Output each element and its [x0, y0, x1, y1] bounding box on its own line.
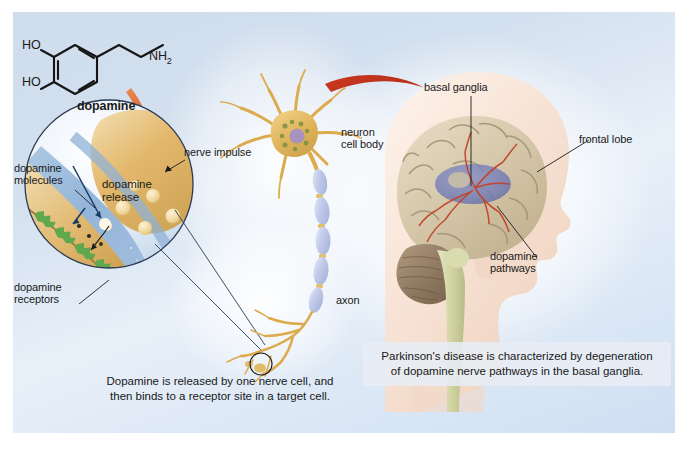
brain-caption: Parkinson's disease is characterized by … — [363, 342, 671, 386]
dopamine-receptors-label: dopamine receptors — [14, 281, 62, 306]
brain-leader-lines — [471, 96, 589, 258]
amine-text: NH — [149, 49, 167, 63]
amine-label: NH2 — [149, 35, 172, 66]
neuron — [221, 70, 361, 382]
illustration-panel: dopamine HO HO NH2 dopamine molecules do… — [13, 12, 675, 433]
dopamine-structure — [41, 45, 163, 94]
basal-ganglia-label: basal ganglia — [424, 81, 488, 93]
axon-myelin — [306, 152, 330, 314]
ho-top-label: HO — [22, 38, 41, 52]
dopamine-name-label: dopamine — [77, 99, 135, 113]
neuron-cell-body-label: neuron cell body — [341, 126, 384, 151]
dopamine-pathways-label: dopamine pathways — [490, 250, 538, 275]
dopamine-molecules-label: dopamine molecules — [14, 162, 63, 187]
inset-connector-lines — [155, 210, 265, 350]
dopamine-release-label: dopamine release — [102, 178, 152, 204]
amine-subscript: 2 — [167, 56, 172, 66]
frontal-lobe-label: frontal lobe — [579, 133, 632, 145]
synapse-caption: Dopamine is released by one nerve cell, … — [75, 374, 365, 404]
nerve-impulse-label: nerve impulse — [184, 146, 251, 158]
axon-label: axon — [336, 294, 359, 306]
ho-bottom-label: HO — [22, 75, 41, 89]
figure-root: dopamine HO HO NH2 dopamine molecules do… — [0, 0, 688, 459]
dopamine-pathway-lines — [419, 132, 517, 242]
